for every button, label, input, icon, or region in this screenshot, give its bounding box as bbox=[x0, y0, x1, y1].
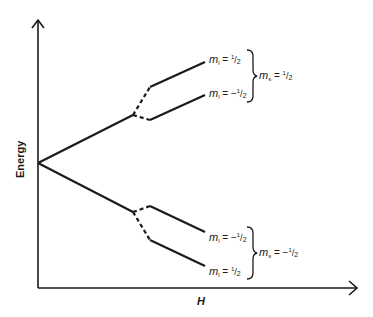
lower-branch-line bbox=[38, 163, 133, 212]
level-lower-ml-plus bbox=[150, 240, 205, 266]
energy-level-diagram bbox=[0, 0, 373, 317]
y-axis-label: Energy bbox=[14, 141, 26, 178]
x-axis-label: H bbox=[197, 295, 205, 307]
upper-split-dash-up bbox=[133, 87, 150, 115]
lower-split-dash-down bbox=[133, 212, 150, 240]
upper-split-dash-down bbox=[133, 115, 150, 120]
label-lower-ml-plus: ml = 1/2 bbox=[209, 266, 241, 278]
upper-branch-line bbox=[38, 115, 133, 163]
level-lower-ml-minus bbox=[150, 206, 205, 232]
lower-split-dash-up bbox=[133, 206, 150, 212]
label-upper-ml-minus: ml = −1/2 bbox=[209, 88, 247, 100]
label-upper-ms: ms = 1/2 bbox=[259, 70, 292, 82]
label-lower-ml-minus: ml = −1/2 bbox=[209, 232, 247, 244]
label-upper-ml-plus: ml = 1/2 bbox=[209, 54, 241, 66]
label-lower-ms: ms = −1/2 bbox=[259, 247, 298, 259]
lower-brace-icon bbox=[247, 227, 257, 279]
upper-brace-icon bbox=[247, 50, 257, 102]
level-upper-ml-plus bbox=[150, 62, 205, 87]
level-upper-ml-minus bbox=[150, 95, 205, 120]
